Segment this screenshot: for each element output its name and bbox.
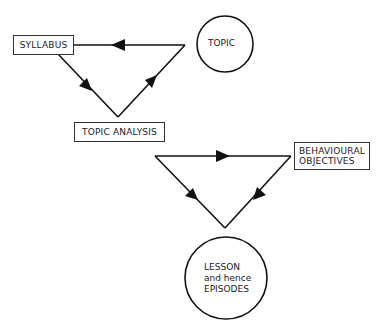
lesson-label-line-3: EPISODES	[204, 284, 251, 295]
behavioural-label-line-1: BEHAVIOURAL	[299, 146, 365, 156]
lesson-label-line-1: LESSON	[204, 262, 251, 273]
topic-analysis-label: TOPIC ANALYSIS	[82, 127, 157, 137]
arrow-left-icon	[111, 39, 125, 51]
topic-analysis-node: TOPIC ANALYSIS	[74, 122, 165, 142]
lesson-node-label: LESSON and hence EPISODES	[204, 262, 251, 295]
arrow-right-icon	[216, 150, 230, 162]
topic-node-label: TOPIC	[208, 38, 235, 49]
arrow-down-left-icon	[253, 187, 266, 200]
lesson-label-line-2: and hence	[204, 273, 251, 284]
syllabus-node: SYLLABUS	[13, 35, 74, 55]
behavioural-objectives-node: BEHAVIOURAL OBJECTIVES	[294, 142, 370, 170]
arrow-down-right-icon	[79, 78, 92, 91]
syllabus-label: SYLLABUS	[20, 40, 68, 50]
behavioural-label-line-2: OBJECTIVES	[299, 156, 355, 166]
